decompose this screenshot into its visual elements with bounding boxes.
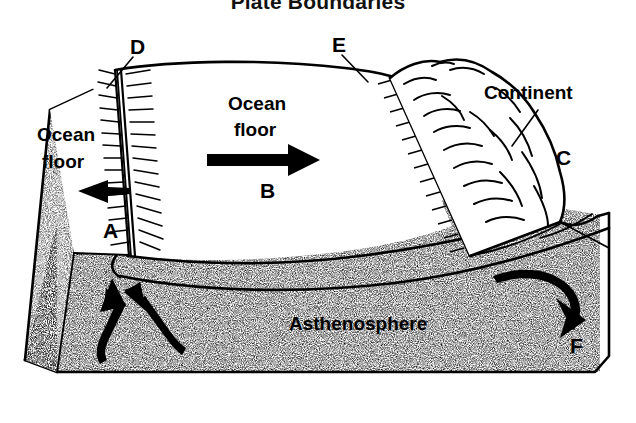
continent-label: Continent [484,82,573,103]
ocean-floor-center-label-line1: Ocean [228,93,286,114]
annotation-label-d: D [130,35,145,58]
ocean-floor-left-label-line1: Ocean [37,124,95,145]
annotation-label-b: B [260,179,275,202]
annotation-label-e: E [332,33,346,56]
annotation-label-a: A [103,219,118,242]
annotation-label-f: F [570,334,583,357]
diagram-canvas: Plate Boundaries [0,0,636,423]
ocean-floor-left-label-line2: floor [42,151,85,172]
asthenosphere-label: Asthenosphere [289,313,427,334]
plate-boundaries-diagram: Plate Boundaries [0,0,636,423]
page-title: Plate Boundaries [231,0,406,13]
ocean-floor-center-label-line2: floor [234,119,277,140]
annotation-label-c: C [556,146,571,169]
